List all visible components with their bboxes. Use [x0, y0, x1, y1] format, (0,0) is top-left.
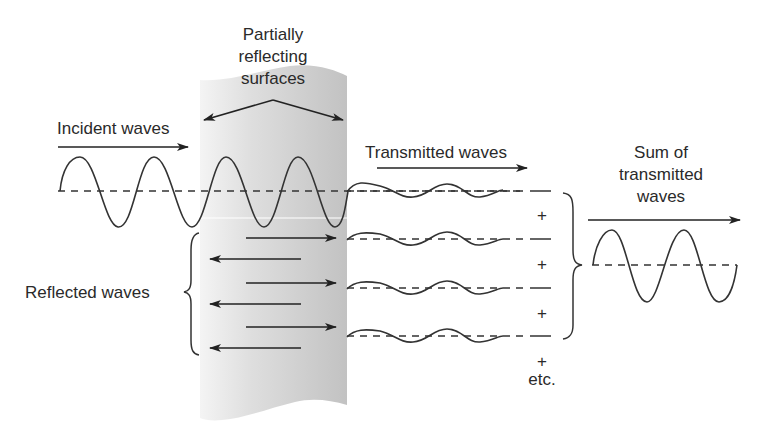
label-transmitted-waves: Transmitted waves — [365, 143, 507, 162]
label-sum-waves: waves — [636, 187, 685, 206]
sum-wave — [593, 230, 737, 302]
reflecting-slab — [200, 65, 347, 420]
sum-brace — [563, 193, 582, 339]
label-sum-transmitted: transmitted — [619, 165, 703, 184]
plus-sign-2: + — [537, 255, 547, 274]
transmitted-wave-2 — [347, 232, 551, 245]
label-sum-of: Sum of — [634, 143, 688, 162]
transmitted-wave-4 — [347, 329, 551, 342]
label-partially: Partially — [243, 25, 304, 44]
label-reflected-waves: Reflected waves — [25, 283, 150, 302]
partial-reflection-diagram: Partially reflecting surfaces Incident w… — [0, 0, 769, 444]
transmitted-wave-3 — [347, 281, 551, 294]
transmitted-wave-1 — [347, 183, 551, 197]
plus-sign-1: + — [537, 206, 547, 225]
label-incident-waves: Incident waves — [57, 119, 169, 138]
plus-sign-3: + — [537, 304, 547, 323]
plus-sign-4: + — [537, 352, 547, 371]
label-reflecting: reflecting — [239, 47, 308, 66]
label-etc: etc. — [528, 370, 555, 389]
label-surfaces: surfaces — [241, 69, 305, 88]
reflected-brace — [184, 233, 199, 355]
